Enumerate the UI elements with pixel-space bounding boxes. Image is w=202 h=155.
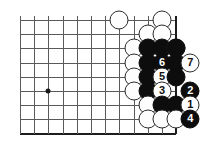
move-number-label: 7 bbox=[187, 57, 193, 68]
move-number-label: 2 bbox=[187, 85, 193, 96]
grid-line-vertical bbox=[119, 16, 120, 134]
grid-line-vertical bbox=[34, 16, 35, 134]
move-number-label: 4 bbox=[187, 113, 193, 124]
move-4-black-stone[interactable]: 4 bbox=[181, 110, 200, 129]
grid-line-vertical bbox=[105, 16, 106, 134]
grid-line-vertical bbox=[48, 16, 49, 134]
grid-line-vertical bbox=[91, 16, 92, 134]
grid-line-vertical bbox=[63, 16, 64, 134]
move-7-white-stone[interactable]: 7 bbox=[181, 53, 200, 72]
grid-line-vertical bbox=[20, 16, 21, 134]
board-white-stone[interactable] bbox=[110, 11, 129, 30]
go-board-diagram: 6537214 bbox=[0, 0, 202, 155]
star-point bbox=[46, 89, 51, 94]
move-number-label: 1 bbox=[187, 99, 193, 110]
move-number-label: 3 bbox=[159, 85, 165, 96]
move-number-label: 6 bbox=[159, 57, 165, 68]
grid-line-vertical bbox=[77, 16, 78, 134]
move-number-label: 5 bbox=[159, 71, 165, 82]
grid-line-horizontal bbox=[20, 133, 176, 135]
